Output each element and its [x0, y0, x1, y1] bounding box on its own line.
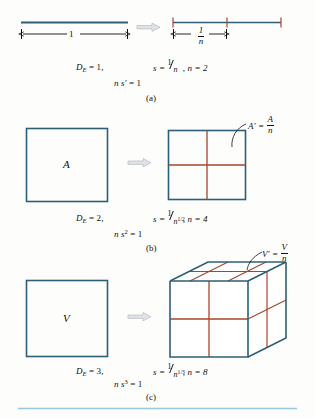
- panel-b-ns-superscript: 2: [125, 228, 128, 235]
- panel-b-s-fraction: 1 n1/2: [168, 213, 181, 224]
- panel-a-n-value: , n = 2: [183, 63, 208, 73]
- panel-c-de-value: = 3,: [89, 366, 103, 376]
- panel-c-ns-superscript: 3: [125, 378, 128, 385]
- panel-b-s-denominator: n1/2: [174, 216, 185, 226]
- panel-b-de-value: = 2,: [89, 213, 103, 223]
- panel-a-right-segment-divided: [173, 18, 281, 40]
- panel-a-frac-denominator: n: [198, 37, 205, 46]
- panel-a-s-lead: s =: [153, 63, 165, 73]
- panel-b-implies-arrow: [128, 159, 151, 167]
- panel-c-implies-arrow: [128, 313, 151, 321]
- panel-c-ns-equation: n s3 = 1: [114, 378, 142, 389]
- panel-c-s-fraction: 1 n1/3: [168, 366, 181, 377]
- panel-a-s-fraction: 1 n: [168, 62, 181, 73]
- panel-c-s-equation: s = 1 n1/3 , n = 8: [153, 366, 208, 377]
- figure-root: 1 1 n DE = 1, s = 1 n , n = 2 n s′ = 1 (…: [0, 0, 315, 418]
- panel-a-de-symbol: D: [76, 62, 83, 72]
- panel-c-de-equation: DE = 3,: [76, 366, 104, 377]
- panel-a-implies-arrow: [137, 23, 160, 31]
- panel-a-ns-prime: ′: [125, 78, 127, 88]
- panel-c-cube-divided: [170, 252, 286, 357]
- panel-label-c: (c): [146, 392, 156, 402]
- panel-b-callout-lead: A′ =: [248, 121, 264, 131]
- panel-b-callout: A′ = A n: [248, 115, 274, 136]
- panel-b-s-equation: s = 1 n1/2 , n = 4: [153, 213, 208, 224]
- panel-b-ns-equation: n s2 = 1: [114, 228, 142, 239]
- panel-c-volume-letter: V: [63, 312, 70, 324]
- panel-label-b: (b): [146, 243, 157, 253]
- panel-c-callout-lead: V′ =: [262, 249, 278, 259]
- panel-b-callout-numerator: A: [267, 115, 275, 124]
- panel-b-s-lead: s =: [153, 214, 165, 224]
- panel-c-de-symbol: D: [76, 366, 83, 376]
- panel-c-ns-value: = 1: [130, 379, 142, 389]
- panel-b-ns-symbol: n s: [114, 229, 125, 239]
- panel-a-s-denominator: n: [174, 65, 178, 74]
- panel-b-callout-denominator: n: [267, 126, 275, 135]
- panel-c-callout-denominator: n: [281, 254, 289, 263]
- panel-a-ns-symbol: n s: [114, 78, 125, 88]
- panel-a-de-equation: DE = 1,: [76, 62, 104, 73]
- panel-a-segment-fraction: 1 n: [192, 26, 210, 47]
- panel-a-de-subscript: E: [83, 66, 87, 73]
- panel-a-left-segment: [21, 23, 128, 40]
- panel-a-length-label: 1: [68, 29, 75, 39]
- panel-b-area-letter: A: [63, 158, 70, 170]
- panel-c-callout-numerator: V: [281, 243, 289, 252]
- panel-b-s-denominator-power: 1/2: [178, 216, 185, 222]
- panel-b-ns-value: = 1: [130, 229, 142, 239]
- panel-c-s-lead: s =: [153, 367, 165, 377]
- panel-c-s-denominator: n1/3: [174, 369, 185, 379]
- panel-c-callout: V′ = V n: [262, 243, 288, 264]
- panel-b-n-value: , n = 4: [183, 214, 208, 224]
- panel-c-ns-symbol: n s: [114, 379, 125, 389]
- panel-a-ns-equation: n s′ = 1: [114, 78, 141, 88]
- panel-c-de-subscript: E: [83, 370, 87, 377]
- panel-a-de-value: = 1,: [89, 62, 103, 72]
- panel-b-right-square-divided: [169, 124, 247, 200]
- panel-c-n-value: , n = 8: [183, 367, 208, 377]
- panel-a-ns-value: = 1: [129, 78, 141, 88]
- panel-b-de-symbol: D: [76, 213, 83, 223]
- panel-a-frac-numerator: 1: [198, 26, 205, 35]
- panel-b-de-equation: DE = 2,: [76, 213, 104, 224]
- panel-a-s-equation: s = 1 n , n = 2: [153, 62, 208, 73]
- panel-c-s-denominator-power: 1/3: [178, 369, 185, 375]
- panel-b-de-subscript: E: [83, 217, 87, 224]
- panel-label-a: (a): [146, 93, 156, 103]
